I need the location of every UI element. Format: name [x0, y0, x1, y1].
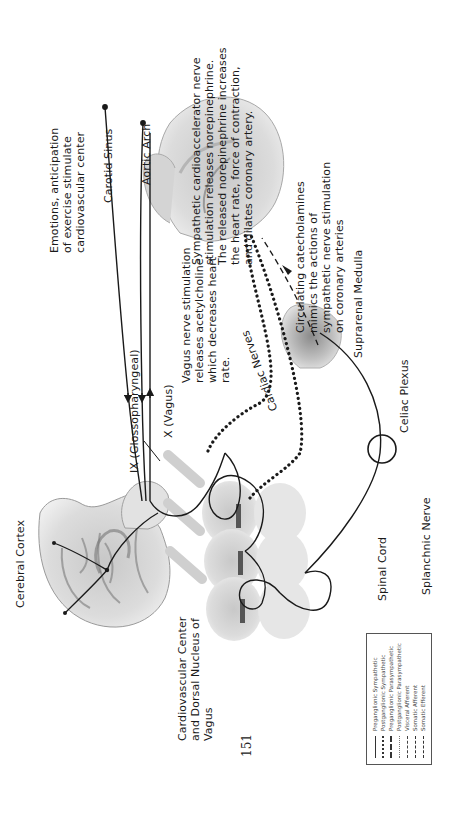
- label-spinal-cord: Spinal Cord: [376, 537, 389, 601]
- vagus-note-line-3: which decreases heart: [206, 247, 219, 383]
- legend-label: Postganglionic Parasympathetic: [396, 643, 402, 731]
- catecholamines-note-line-2: mimics the actions of: [307, 162, 320, 333]
- sympathetic-note-line-4: the heart rate, force of contraction,: [229, 47, 242, 265]
- label-cerebral-cortex: Cerebral Cortex: [14, 520, 27, 608]
- rotated-figure-page: Cerebral Cortex Emotions, anticipation o…: [0, 0, 456, 813]
- legend-item-visceral-afferent: Visceral Afferent: [403, 640, 411, 758]
- vagus-note-line-2: releases acetylcholine: [193, 247, 206, 383]
- label-glossopharyngeal: IX (Glossopharyngeal): [128, 349, 141, 473]
- cv-center-line-2: and Dorsal Nucleus of: [189, 617, 202, 741]
- legend-label: Somatic Afferent: [412, 685, 418, 731]
- legend-item-preganglionic-parasympathetic: Preganglionic Parasympathetic: [387, 640, 395, 758]
- solid-line-swatch: [375, 736, 376, 758]
- legend-label: Somatic Efferent: [420, 685, 426, 731]
- label-vagus-note: Vagus nerve stimulation releases acetylc…: [180, 247, 232, 383]
- dashed-line-swatch: [423, 736, 424, 758]
- legend-item-postganglionic-parasympathetic: Postganglionic Parasympathetic: [395, 640, 403, 758]
- cv-center-line-3: Vagus: [202, 617, 215, 741]
- label-sympathetic-note: Sympathetic cardioaccelerator nerve stim…: [190, 47, 255, 265]
- sympathetic-note-line-5: and dilates coronary artery.: [242, 47, 255, 265]
- dotted-light-line-swatch: [399, 736, 400, 758]
- label-emotions-line-1: Emotions, anticipation: [48, 128, 61, 253]
- label-splanchnic-nerve: Splanchnic Nerve: [420, 497, 433, 595]
- legend-label: Preganglionic Parasympathetic: [388, 646, 394, 731]
- legend-item-somatic-efferent: Somatic Efferent: [419, 640, 427, 758]
- legend-label: Preganglionic Sympathetic: [372, 658, 378, 732]
- label-vagus: X (Vagus): [162, 384, 175, 438]
- catecholamines-note-line-4: on coronary arteries: [333, 162, 346, 333]
- label-emotions-line-3: cardiovascular center: [74, 128, 87, 253]
- vagus-note-line-1: Vagus nerve stimulation: [180, 247, 193, 383]
- vagus-note-line-4: rate.: [219, 247, 232, 383]
- label-aortic-arch: Aortic Arch: [140, 124, 153, 185]
- sympathetic-note-line-3: The released norepinephrine increases: [216, 47, 229, 265]
- catecholamines-note-line-1: Circulating catecholamines: [294, 162, 307, 333]
- sympathetic-note-line-2: stimulation releases norepinephrine.: [203, 47, 216, 265]
- label-emotions-line-2: of exercise stimulate: [61, 128, 74, 253]
- label-celiac-plexus: Celiac Plexus: [398, 359, 411, 433]
- legend-item-somatic-afferent: Somatic Afferent: [411, 640, 419, 758]
- dashed-heavy-line-swatch: [390, 736, 392, 758]
- legend-item-postganglionic-sympathetic: Postganglionic Sympathetic: [379, 640, 387, 758]
- label-suprarenal-medulla: Suprarenal Medulla: [352, 250, 365, 358]
- legend-label: Visceral Afferent: [404, 686, 410, 731]
- label-carotid-sinus: Carotid Sinus: [102, 129, 115, 203]
- dash-dot-heavy-line-swatch: [415, 736, 416, 758]
- sympathetic-note-line-1: Sympathetic cardioaccelerator nerve: [190, 47, 203, 265]
- cv-center-line-1: Cardiovascular Center: [176, 617, 189, 741]
- label-cardiovascular-center: Cardiovascular Center and Dorsal Nucleus…: [176, 617, 215, 741]
- label-catecholamines-note: Circulating catecholamines mimics the ac…: [294, 162, 346, 333]
- brain-illustration: [39, 481, 170, 627]
- dash-dot-line-swatch: [407, 736, 408, 758]
- dotted-heavy-line-swatch: [382, 736, 384, 758]
- legend-label: Postganglionic Sympathetic: [380, 655, 386, 731]
- label-emotions: Emotions, anticipation of exercise stimu…: [48, 128, 87, 253]
- catecholamine-arrow-icon: [282, 265, 292, 275]
- catecholamines-note-line-3: sympathetic nerve stimulation: [320, 162, 333, 333]
- legend-box: Preganglionic Sympathetic Postganglionic…: [366, 633, 432, 765]
- legend-item-preganglionic-sympathetic: Preganglionic Sympathetic: [371, 640, 379, 758]
- page-number: 151: [240, 734, 254, 757]
